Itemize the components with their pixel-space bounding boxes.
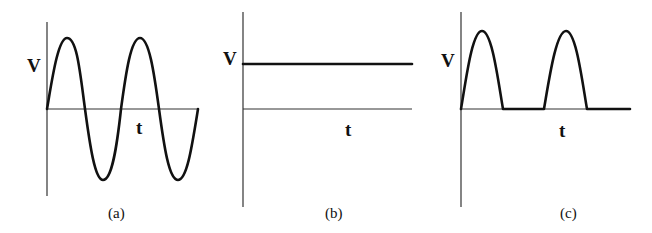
panel-c-y-label: V [441,50,455,71]
panel-c-x-label: t [559,120,566,141]
panel-b: V t (b) [223,12,412,222]
panel-c-rectified-wave [461,31,630,109]
panel-a-caption: (a) [108,205,125,222]
panel-a-x-label: t [136,117,143,138]
panel-b-y-label: V [223,48,237,69]
panel-a-y-label: V [27,55,41,76]
voltage-waveforms-diagram: V t (a) V t (b) V t (c) [0,0,652,233]
panel-a: V t (a) [27,22,198,222]
panel-b-caption: (b) [325,205,343,222]
panel-c-caption: (c) [560,205,577,222]
panel-b-x-label: t [345,119,352,140]
panel-c: V t (c) [441,12,630,222]
